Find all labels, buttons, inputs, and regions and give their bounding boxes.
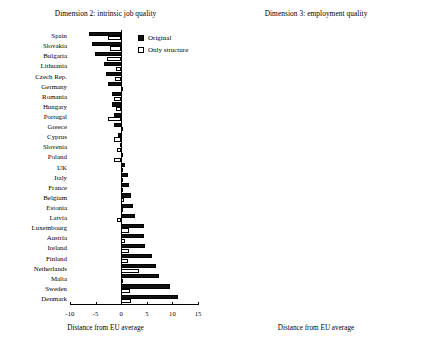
x-axis-tick-label: -10: [66, 310, 75, 317]
bar-only-structure: [121, 168, 123, 172]
bar-original: [89, 32, 121, 36]
x-axis-tick-label: 10: [169, 310, 176, 317]
bar-original: [121, 204, 133, 208]
bar-only-structure: [121, 208, 123, 212]
bar-only-structure: [121, 299, 131, 303]
category-label-sweden: Sweden: [45, 285, 70, 292]
bar-original: [121, 163, 125, 167]
x-axis-tick: [172, 302, 173, 305]
bar-only-structure: [121, 259, 128, 263]
bar-original: [121, 183, 129, 187]
chart-title-dimension3: Dimension 3: employment quality: [211, 9, 421, 18]
bar-only-structure: [114, 97, 122, 101]
bar-original: [112, 102, 121, 106]
bar-original: [108, 82, 121, 86]
bar-original: [121, 244, 145, 248]
bar-original: [114, 113, 122, 117]
bar-only-structure: [121, 239, 125, 243]
bar-original: [121, 193, 131, 197]
bar-only-structure: [117, 218, 122, 222]
bar-original: [112, 92, 121, 96]
bar-original: [106, 72, 121, 76]
bar-original: [121, 264, 156, 268]
bar-only-structure: [110, 46, 121, 50]
legend-label-only-structure: Only structure: [148, 46, 188, 54]
bar-only-structure: [117, 148, 122, 152]
x-axis-tick-label: 5: [145, 310, 148, 317]
bar-original: [120, 143, 122, 147]
x-axis-tick-label: 0: [120, 310, 123, 317]
category-label-slovenia: Slovenia: [43, 144, 70, 151]
hollow-square-icon: [138, 47, 144, 53]
bar-original: [121, 153, 123, 157]
category-label-finland: Finland: [46, 255, 70, 262]
legend-label-original: Original: [148, 34, 171, 42]
x-axis-line: [70, 304, 198, 305]
bar-only-structure: [107, 57, 121, 61]
chart-panel-dimension3: Dimension 3: employment quality -15-10-5…: [211, 0, 421, 350]
bar-original: [121, 254, 152, 258]
category-label-greece: Greece: [47, 124, 70, 131]
category-label-malta: Malta: [51, 275, 70, 282]
category-label-cyprus: Cyprus: [47, 134, 70, 141]
bar-only-structure: [121, 228, 129, 232]
category-label-lithuania: Lithuania: [41, 63, 70, 70]
category-label-estonia: Estonia: [46, 204, 70, 211]
bar-original: [114, 123, 121, 127]
bar-original: [121, 224, 144, 228]
x-axis-tick-label: -5: [93, 310, 99, 317]
bar-original: [104, 62, 121, 66]
category-label-netherlands: Netherlands: [34, 265, 70, 272]
legend-entry-only-structure: Only structure: [138, 44, 188, 56]
category-label-latvia: Latvia: [49, 215, 70, 222]
chart-panel-dimension2: Dimension 2: intrinsic job quality -10-5…: [0, 0, 211, 350]
category-label-bulgaria: Bulgaria: [43, 53, 70, 60]
bar-only-structure: [121, 188, 123, 192]
category-label-poland: Poland: [48, 154, 70, 161]
category-label-denmark: Denmark: [41, 295, 70, 302]
bar-original: [95, 52, 122, 56]
bar-only-structure: [108, 36, 121, 40]
category-label-france: France: [48, 184, 70, 191]
bar-only-structure: [114, 137, 121, 141]
x-axis-tick: [198, 302, 199, 305]
bar-original: [92, 42, 122, 46]
bar-original: [121, 234, 144, 238]
x-axis-tick-label: 15: [195, 310, 202, 317]
x-axis-tick: [70, 302, 71, 305]
category-label-spain: Spain: [51, 33, 70, 40]
bar-only-structure: [115, 77, 121, 81]
bar-only-structure: [121, 269, 138, 273]
x-axis-tick: [147, 302, 148, 305]
category-label-czech-rep: Czech Rep.: [35, 73, 70, 80]
x-axis-caption-dimension3: Distance from EU average: [211, 324, 421, 332]
bar-only-structure: [121, 198, 124, 202]
category-label-belgium: Belgium: [43, 194, 70, 201]
category-label-romania: Romania: [42, 93, 70, 100]
bar-only-structure: [121, 127, 123, 131]
category-label-portugal: Portugal: [44, 113, 70, 120]
bar-only-structure: [116, 107, 121, 111]
category-label-uk: UK: [57, 164, 70, 171]
bar-only-structure: [121, 249, 129, 253]
bar-only-structure: [114, 158, 121, 162]
bar-only-structure: [121, 289, 130, 293]
category-label-slovakia: Slovakia: [43, 43, 70, 50]
bar-only-structure: [121, 279, 123, 283]
plot-area-dimension2: -10-5051015SpainSlovakiaBulgariaLithuani…: [70, 30, 198, 305]
legend-dimension2: Original Only structure: [138, 32, 188, 56]
bar-only-structure: [121, 178, 123, 182]
category-label-hungary: Hungary: [43, 103, 70, 110]
bar-only-structure: [121, 87, 123, 91]
bar-original: [121, 173, 128, 177]
category-label-italy: Italy: [54, 174, 70, 181]
bar-only-structure: [116, 67, 121, 71]
bar-only-structure: [108, 117, 121, 121]
category-label-austria: Austria: [47, 235, 70, 242]
category-label-germany: Germany: [41, 83, 70, 90]
bar-original: [121, 274, 159, 278]
chart-title-dimension2: Dimension 2: intrinsic job quality: [0, 9, 211, 18]
category-label-ireland: Ireland: [47, 245, 70, 252]
x-axis-caption-dimension2: Distance from EU average: [0, 324, 211, 332]
figure-canvas: Dimension 2: intrinsic job quality -10-5…: [0, 0, 421, 350]
